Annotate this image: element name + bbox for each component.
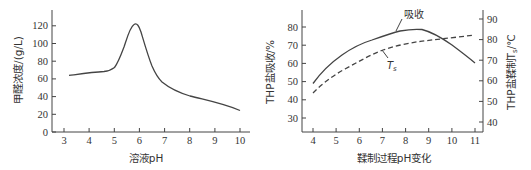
x-tick-label: 3	[61, 135, 66, 146]
x-tick-label: 6	[357, 135, 362, 146]
x-tick-label: 9	[212, 135, 217, 146]
y2-tick-label: 80	[487, 34, 498, 45]
x-tick-label: 7	[162, 135, 167, 146]
y-tick-label: 60	[288, 58, 299, 69]
x-tick-label: 7	[380, 135, 385, 146]
y2-axis-title: THP盐鞣制Ts/℃	[505, 34, 519, 111]
x-tick-label: 4	[86, 135, 92, 146]
figure-canvas: 0 20 40 60 80 100 120 3 4 5 6 7 8 9 10	[0, 0, 531, 170]
y-tick-label: 30	[288, 113, 299, 124]
x-tick-label: 10	[447, 135, 458, 146]
left-y-ticks: 30 40 50 60 70 80	[288, 22, 307, 124]
y-tick-label: 70	[288, 40, 299, 51]
y-tick-label: 80	[288, 22, 299, 33]
absorption-label: 吸收	[404, 8, 424, 20]
x-ticks: 4 5 6 7 8 9 10 11	[310, 128, 480, 146]
thp-absorption-chart: 30 40 50 60 70 80 40 50 60 70 80 90	[264, 8, 519, 164]
right-y-ticks: 40 50 60 70 80 90	[479, 14, 498, 128]
y-tick-label: 100	[32, 38, 48, 49]
y2-tick-label: 40	[487, 117, 498, 128]
x-tick-label: 8	[403, 135, 408, 146]
y-tick-label: 60	[38, 73, 49, 84]
y-tick-label: 120	[32, 20, 48, 31]
ts-leader-line	[382, 50, 388, 58]
y2-tick-label: 50	[487, 96, 498, 107]
absorption-curve	[313, 29, 475, 83]
x-tick-label: 5	[112, 135, 117, 146]
y-axis-title: THP盐吸收/%	[264, 40, 276, 105]
absorption-leader-line	[396, 19, 402, 31]
x-tick-label: 6	[137, 135, 142, 146]
x-tick-label: 10	[235, 135, 246, 146]
formaldehyde-chart: 0 20 40 60 80 100 120 3 4 5 6 7 8 9 10	[12, 10, 250, 164]
y2-tick-label: 90	[487, 14, 498, 25]
x-axis-title: 鞣制过程pH变化	[357, 152, 433, 164]
y-tick-label: 20	[38, 109, 49, 120]
y-tick-label: 80	[38, 56, 49, 67]
x-tick-label: 5	[333, 135, 338, 146]
y-tick-label: 50	[288, 76, 299, 87]
y2-tick-label: 60	[487, 75, 498, 86]
formaldehyde-curve	[69, 24, 240, 111]
x-ticks: 3 4 5 6 7 8 9 10	[61, 128, 245, 146]
x-tick-label: 8	[187, 135, 192, 146]
x-tick-label: 11	[470, 135, 480, 146]
x-tick-label: 9	[426, 135, 431, 146]
y-tick-label: 40	[288, 94, 299, 105]
y2-tick-label: 70	[487, 55, 498, 66]
y-tick-label: 0	[43, 127, 48, 138]
ts-label: Ts	[387, 60, 397, 73]
x-tick-label: 4	[310, 135, 316, 146]
x-axis-title: 溶液pH	[129, 152, 164, 164]
y-tick-label: 40	[38, 91, 49, 102]
y-axis-title: 甲醛浓度/(g/L)	[12, 36, 24, 104]
